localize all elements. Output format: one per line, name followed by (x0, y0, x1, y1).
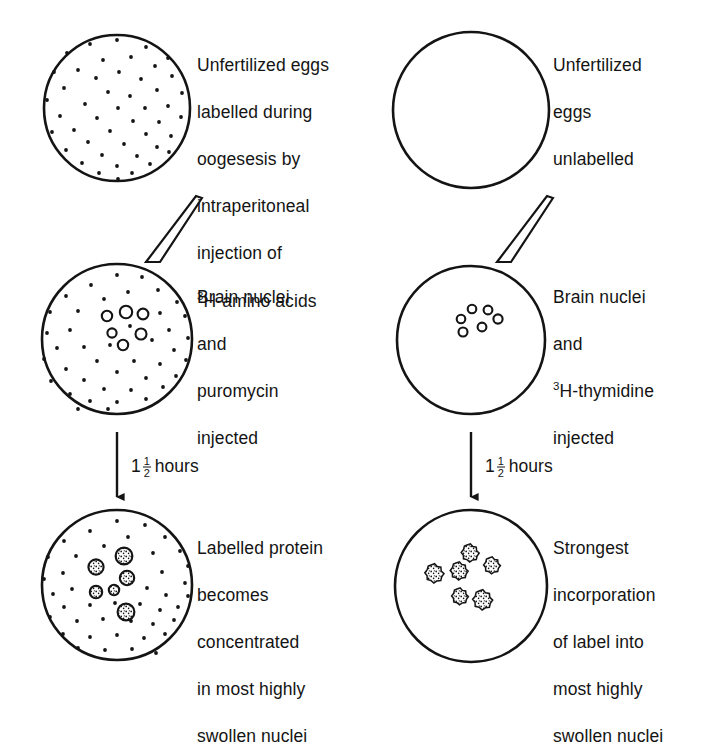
arrow-label-right: 1 1 2 hours (485, 455, 553, 478)
fraction-denominator: 2 (143, 467, 151, 479)
caption-line: puromycin (197, 380, 357, 404)
caption-line: concentrated (197, 631, 367, 655)
caption-line: Strongest (553, 537, 713, 561)
caption-line: swollen nuclei (197, 725, 367, 746)
fraction-one-half: 1 2 (497, 456, 505, 479)
caption-line: eggs (553, 101, 705, 125)
cell-unfertilized-egg-labelled (44, 35, 190, 181)
fraction-numerator: 1 (143, 456, 151, 467)
caption-labelled-protein-concentrated: Labelled protein becomes concentrated in… (197, 513, 367, 746)
fraction-one-half: 1 2 (143, 456, 151, 479)
caption-line: Brain nuclei (197, 286, 357, 310)
caption-line: incorporation (553, 584, 713, 608)
caption-line: Unfertilized (553, 54, 705, 78)
injection-needle-right (497, 196, 553, 262)
caption-line: and (197, 333, 357, 357)
caption-brain-nuclei-puromycin: Brain nuclei and puromycin injected (197, 262, 357, 474)
caption-line: labelled during (197, 101, 365, 125)
caption-line: unlabelled (553, 148, 705, 172)
cell-brain-nuclei-thymidine (397, 266, 545, 414)
isotope-text: H-thymidine (560, 381, 654, 401)
caption-line: Unfertilized eggs (197, 54, 365, 78)
injection-needle-left (146, 196, 202, 262)
caption-line: becomes (197, 584, 367, 608)
caption-line: in most highly (197, 678, 367, 702)
caption-line: oogesesis by (197, 148, 365, 172)
caption-line-isotope: 3H-thymidine (553, 380, 713, 404)
cell-brain-nuclei-puromycin (42, 264, 192, 414)
cell-unfertilized-egg-unlabelled (393, 32, 549, 188)
arrow-label-prefix: 1 (131, 456, 141, 477)
arrow-label-prefix: 1 (485, 456, 495, 477)
caption-strongest-incorporation: Strongest incorporation of label into mo… (553, 513, 713, 746)
fraction-denominator: 2 (497, 467, 505, 479)
cell-strongest-incorporation (395, 510, 547, 662)
caption-line: swollen nuclei (553, 725, 713, 746)
arrow-label-suffix: hours (509, 456, 553, 477)
cell-labelled-protein-concentrated (42, 510, 192, 660)
caption-line: of label into (553, 631, 713, 655)
caption-line: Labelled protein (197, 537, 367, 561)
caption-line: injected (197, 427, 357, 451)
caption-line: and (553, 333, 713, 357)
caption-brain-nuclei-thymidine: Brain nuclei and 3H-thymidine injected (553, 262, 713, 474)
caption-unfertilized-egg-unlabelled: Unfertilized eggs unlabelled (553, 30, 705, 195)
caption-line: most highly (553, 678, 713, 702)
caption-line: injected (553, 427, 713, 451)
arrow-label-left: 1 1 2 hours (131, 455, 199, 478)
caption-line: Brain nuclei (553, 286, 713, 310)
caption-line: intraperitoneal (197, 195, 365, 219)
fraction-numerator: 1 (497, 456, 505, 467)
arrow-label-suffix: hours (155, 456, 199, 477)
